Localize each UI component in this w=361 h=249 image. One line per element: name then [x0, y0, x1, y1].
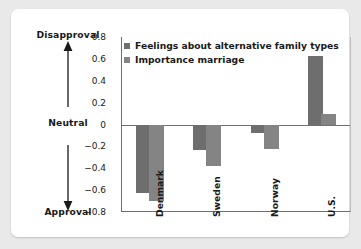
chart-legend: Feelings about alternative family types … [124, 39, 339, 67]
legend-item: Feelings about alternative family types [124, 39, 339, 52]
y-axis-tick: −0.6 [84, 185, 106, 195]
legend-swatch-icon [124, 57, 130, 63]
x-axis-label: Sweden [211, 176, 222, 217]
x-axis-label: U.S. [326, 196, 337, 217]
y-axis-tick: −0.8 [84, 207, 106, 217]
x-axis-label: Norway [269, 178, 280, 217]
x-axis-label: Denmark [154, 170, 165, 217]
bar [206, 125, 221, 167]
y-axis-tick: 0 [100, 120, 106, 130]
y-axis-tick: −0.4 [84, 163, 106, 173]
y-axis-tick: 0.8 [92, 32, 106, 42]
y-axis-tick: 0.6 [92, 54, 106, 64]
legend-item: Importance marriage [124, 53, 339, 66]
legend-label: Feelings about alternative family types [135, 40, 339, 51]
bar [264, 125, 279, 149]
y-axis-tick: 0.4 [92, 76, 106, 86]
y-axis-tick: −0.2 [84, 141, 106, 151]
chart-card: Disapproval Neutral Approval 0.80.60.40.… [11, 9, 349, 237]
legend-label: Importance marriage [135, 54, 244, 65]
y-axis-tick: 0.2 [92, 98, 106, 108]
bar [321, 114, 336, 125]
plot-area: 0.80.60.40.20−0.2−0.4−0.6−0.8 DenmarkSwe… [111, 37, 351, 242]
chart-screenshot: Disapproval Neutral Approval 0.80.60.40.… [0, 0, 361, 249]
legend-swatch-icon [124, 43, 130, 49]
